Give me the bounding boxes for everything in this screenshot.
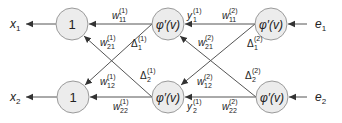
svg-text:(1): (1)	[107, 34, 116, 42]
edge-w21-2	[180, 36, 256, 97]
svg-text:21: 21	[205, 43, 213, 50]
svg-text:(2): (2)	[254, 35, 263, 43]
output-label-x1: x1	[9, 17, 21, 33]
node-left-bottom: 1	[57, 81, 89, 113]
svg-text:12: 12	[107, 82, 115, 89]
svg-text:(2): (2)	[252, 67, 261, 75]
label-w11-2: w (2) 11	[222, 7, 238, 23]
label-w11-1: w (1) 11	[112, 7, 128, 23]
node-label: 1	[69, 90, 76, 105]
svg-text:(1): (1)	[120, 98, 129, 106]
svg-text:11: 11	[229, 16, 236, 23]
input-label-e2: e2	[315, 90, 327, 106]
svg-text:(1): (1)	[119, 7, 128, 15]
label-w21-2: w (2) 21	[198, 34, 214, 50]
node-label: φ′(v)	[260, 91, 284, 105]
svg-text:1: 1	[138, 44, 142, 51]
backprop-signal-flow-graph: 1 1 φ′(v) φ′(v) φ′(v) φ′(v) x1 x2 e1 e2 …	[0, 0, 342, 123]
label-y2-1: y (1) 2	[186, 98, 202, 114]
label-delta2-2: Δ (2) 2	[245, 67, 261, 83]
label-delta2-1: Δ (1) 2	[140, 67, 156, 83]
node-mid-top: φ′(v)	[152, 8, 184, 40]
node-label: φ′(v)	[156, 91, 180, 105]
svg-text:11: 11	[119, 16, 126, 23]
svg-text:(2): (2)	[204, 73, 213, 81]
node-label: φ′(v)	[156, 18, 180, 32]
label-w21-1: w (1) 21	[100, 34, 116, 50]
svg-text:1: 1	[254, 44, 258, 51]
svg-text:(2): (2)	[205, 34, 214, 42]
svg-text:12: 12	[204, 82, 212, 89]
svg-text:1: 1	[193, 16, 197, 23]
svg-text:(1): (1)	[107, 73, 116, 81]
node-label: 1	[68, 17, 75, 32]
svg-text:21: 21	[107, 43, 115, 50]
label-w12-1: w (1) 12	[100, 73, 116, 89]
svg-text:(1): (1)	[193, 98, 202, 106]
svg-text:(2): (2)	[229, 98, 238, 106]
svg-text:Δ: Δ	[245, 70, 252, 81]
node-left-top: 1	[56, 8, 88, 40]
svg-text:Δ: Δ	[140, 70, 147, 81]
svg-text:22: 22	[229, 107, 237, 114]
label-w22-2: w (2) 22	[222, 98, 238, 114]
svg-text:(1): (1)	[138, 35, 147, 43]
svg-text:y: y	[186, 101, 193, 112]
label-w12-2: w (2) 12	[197, 73, 213, 89]
node-mid-bottom: φ′(v)	[152, 81, 184, 113]
label-y1-1: y (1) 1	[186, 7, 202, 23]
svg-text:22: 22	[120, 107, 128, 114]
svg-text:(2): (2)	[229, 7, 238, 15]
svg-text:Δ: Δ	[247, 38, 254, 49]
svg-text:2: 2	[252, 76, 256, 83]
output-label-x2: x2	[9, 90, 21, 106]
edge-w12-2	[181, 24, 255, 85]
input-label-e1: e1	[315, 17, 327, 33]
node-label: φ′(v)	[259, 18, 283, 32]
label-delta1-1: Δ (1) 1	[131, 35, 147, 51]
label-w22-1: w (1) 22	[113, 98, 129, 114]
svg-text:(1): (1)	[147, 67, 156, 75]
svg-text:Δ: Δ	[131, 38, 138, 49]
node-right-bottom: φ′(v)	[256, 81, 288, 113]
label-delta1-2: Δ (2) 1	[247, 35, 263, 51]
svg-text:2: 2	[147, 76, 151, 83]
svg-text:2: 2	[193, 107, 197, 114]
svg-text:(1): (1)	[193, 7, 202, 15]
svg-text:y: y	[186, 10, 193, 21]
